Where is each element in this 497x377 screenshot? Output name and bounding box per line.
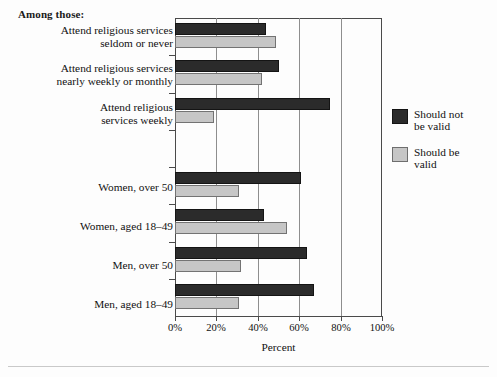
x-tick-80 (341, 316, 342, 321)
x-tick-label-60: 60% (289, 322, 308, 333)
gridline-80 (341, 18, 342, 316)
category-label-0: Attend religious services seldom or neve… (15, 24, 173, 49)
y-tick-5 (169, 204, 175, 205)
bar-0-series-0 (175, 23, 266, 35)
plot-border-top (175, 18, 382, 19)
legend-entry-should-not-be-valid: Should not be valid (392, 108, 492, 133)
plot-border-right (381, 18, 382, 316)
x-tick-40 (258, 316, 259, 321)
category-label-6: Men, over 50 (15, 259, 173, 272)
chart-legend: Should not be valid Should be valid (392, 108, 492, 184)
gridline-60 (299, 18, 300, 316)
bar-4-series-1 (175, 185, 239, 197)
y-tick-7 (169, 279, 175, 280)
legend-label-1: Should be valid (414, 146, 460, 171)
x-tick-20 (216, 316, 217, 321)
bar-5-series-1 (175, 222, 287, 234)
bar-1-series-0 (175, 60, 279, 72)
bar-2-series-0 (175, 98, 330, 110)
x-axis-line (175, 316, 382, 317)
bar-0-series-1 (175, 36, 276, 48)
legend-swatch-light (392, 147, 408, 162)
bar-5-series-0 (175, 209, 264, 221)
category-labels-column: Attend religious services seldom or neve… (10, 0, 173, 377)
bar-4-series-0 (175, 172, 301, 184)
category-label-1: Attend religious services nearly weekly … (15, 62, 173, 87)
category-label-5: Women, aged 18–49 (15, 220, 173, 233)
x-tick-label-100: 100% (370, 322, 395, 333)
y-tick-2 (169, 93, 175, 94)
chart-figure: Among those: Attend religious services s… (0, 0, 497, 377)
x-tick-100 (382, 316, 383, 321)
legend-entry-should-be-valid: Should be valid (392, 146, 492, 171)
x-tick-0 (175, 316, 176, 321)
x-tick-label-20: 20% (206, 322, 225, 333)
y-tick-6 (169, 242, 175, 243)
legend-swatch-dark (392, 109, 408, 124)
bar-6-series-0 (175, 247, 307, 259)
x-tick-label-80: 80% (331, 322, 350, 333)
category-label-7: Men, aged 18–49 (15, 298, 173, 311)
bar-7-series-1 (175, 297, 239, 309)
category-label-4: Women, over 50 (15, 181, 173, 194)
legend-label-0: Should not be valid (414, 108, 463, 133)
x-axis-title: Percent (175, 341, 382, 353)
bar-2-series-1 (175, 111, 214, 123)
bar-1-series-1 (175, 73, 262, 85)
bar-6-series-1 (175, 260, 241, 272)
y-tick-1 (169, 55, 175, 56)
x-tick-label-0: 0% (168, 322, 182, 333)
x-tick-60 (299, 316, 300, 321)
y-tick-4 (169, 167, 175, 168)
bar-7-series-0 (175, 284, 314, 296)
x-tick-label-40: 40% (248, 322, 267, 333)
bottom-divider (8, 366, 489, 367)
category-label-2: Attend religious services weekly (15, 101, 173, 126)
y-tick-3 (169, 130, 175, 131)
